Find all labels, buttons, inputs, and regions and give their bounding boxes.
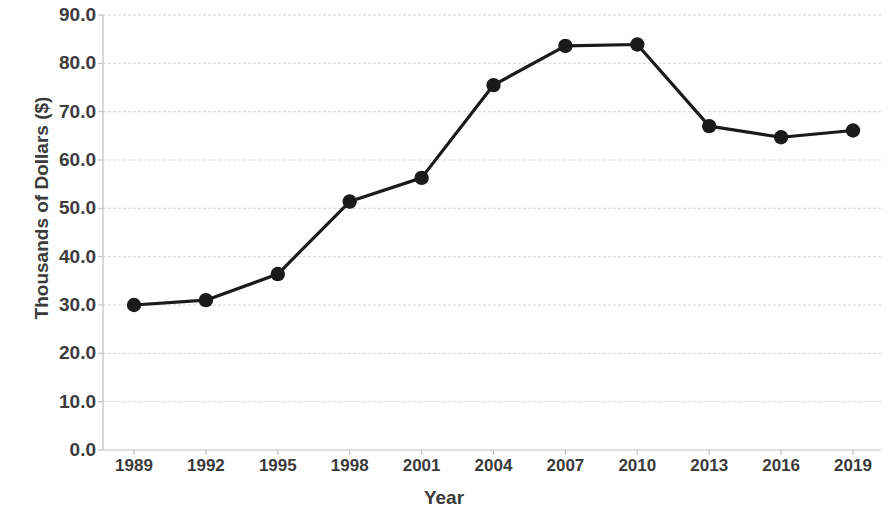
x-tick-label: 1989 xyxy=(115,456,153,476)
plot-area xyxy=(0,0,888,515)
x-tick-label: 2016 xyxy=(762,456,800,476)
x-tick-label: 1995 xyxy=(259,456,297,476)
x-tick-label: 1998 xyxy=(331,456,369,476)
data-point-marker xyxy=(630,37,644,51)
data-point-marker xyxy=(271,267,285,281)
line-chart: Thousands of Dollars ($) 90.0 80.0 70.0 … xyxy=(0,0,888,515)
data-point-marker xyxy=(127,298,141,312)
data-point-marker xyxy=(414,171,428,185)
x-tick-label: 2019 xyxy=(834,456,872,476)
data-point-markers xyxy=(127,37,860,312)
data-point-marker xyxy=(558,39,572,53)
y-axis-ticks xyxy=(98,15,103,450)
x-tick-label: 2004 xyxy=(475,456,513,476)
data-point-marker xyxy=(199,293,213,307)
x-axis-ticks xyxy=(134,450,853,455)
x-axis-title: Year xyxy=(0,487,888,509)
data-point-marker xyxy=(846,123,860,137)
x-tick-label: 2013 xyxy=(690,456,728,476)
data-point-marker xyxy=(486,78,500,92)
gridlines xyxy=(103,15,881,402)
x-tick-label: 1992 xyxy=(187,456,225,476)
x-tick-label: 2010 xyxy=(618,456,656,476)
x-tick-label: 2001 xyxy=(403,456,441,476)
data-point-marker xyxy=(774,130,788,144)
data-point-marker xyxy=(702,119,716,133)
x-tick-label: 2007 xyxy=(546,456,584,476)
data-point-marker xyxy=(343,194,357,208)
